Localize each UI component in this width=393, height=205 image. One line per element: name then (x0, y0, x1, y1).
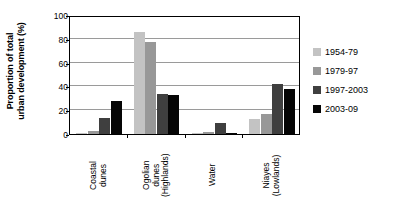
x-category-label-line: Coastal (88, 140, 98, 205)
y-axis-title-line-2: urban development (%) (16, 0, 27, 146)
bar-group (76, 17, 122, 134)
bar (88, 131, 99, 134)
legend-swatch-icon (313, 48, 321, 56)
x-category-label-line: dunes (98, 140, 108, 205)
legend-item: 2003-09 (313, 101, 393, 117)
legend-item: 1954-79 (313, 44, 393, 60)
bar (76, 133, 87, 134)
bar (134, 32, 145, 134)
legend-swatch-icon (313, 67, 321, 75)
bar (215, 123, 226, 134)
legend-label: 1954-79 (325, 47, 358, 57)
y-tick-mark (66, 135, 69, 136)
bar (168, 95, 179, 134)
bar (157, 94, 168, 134)
bar (284, 89, 295, 134)
bar-group (134, 17, 180, 134)
bar (203, 132, 214, 134)
legend-swatch-icon (313, 105, 321, 113)
x-category-label-line: (Highlands) (160, 140, 170, 205)
legend-swatch-icon (313, 86, 321, 94)
y-tick-label: 80 (40, 36, 68, 44)
y-tick-label: 60 (40, 60, 68, 68)
x-category-label-line: Ogolian (141, 140, 151, 205)
legend-label: 2003-09 (325, 104, 358, 114)
plot-area (69, 16, 300, 135)
y-axis-title: Proportion of total urban development (%… (5, 0, 35, 146)
bar (145, 42, 156, 134)
x-category-label-line: Water (209, 140, 219, 205)
x-category-label: Ogoliandunes(Highlands) (141, 140, 170, 205)
bars-layer (70, 17, 299, 134)
x-tick-mark (242, 135, 243, 138)
legend-item: 1997-2003 (313, 82, 393, 98)
chart-legend: 1954-791979-971997-20032003-09 (313, 44, 393, 120)
x-category-label: Coastaldunes (88, 140, 107, 205)
x-category-label-line: (Lowlands) (271, 140, 281, 205)
bar-group (192, 17, 238, 134)
y-tick-label: 100 (40, 12, 68, 20)
x-tick-mark (127, 135, 128, 138)
bar-chart-figure: Proportion of total urban development (%… (0, 0, 393, 205)
y-axis-title-line-1: Proportion of total (5, 0, 16, 146)
y-tick-label: 20 (40, 107, 68, 115)
bar (111, 101, 122, 134)
y-tick-label: 40 (40, 83, 68, 91)
y-tick-label: 0 (40, 131, 68, 139)
bar (272, 84, 283, 134)
bar (249, 119, 260, 134)
bar-group (249, 17, 295, 134)
x-category-label: Water (209, 140, 219, 205)
x-category-label: Niayes(Lowlands) (262, 140, 281, 205)
bar (261, 114, 272, 134)
legend-label: 1997-2003 (325, 85, 368, 95)
legend-label: 1979-97 (325, 66, 358, 76)
x-tick-mark (185, 135, 186, 138)
bar (99, 118, 110, 134)
bar (226, 133, 237, 134)
legend-item: 1979-97 (313, 63, 393, 79)
bar (192, 133, 203, 134)
